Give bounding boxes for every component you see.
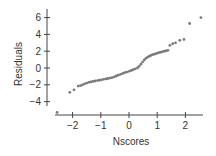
data-point: [168, 44, 171, 47]
y-tick-label: 0: [35, 63, 41, 74]
x-tick-label: −1: [95, 120, 107, 131]
x-tick-label: −2: [67, 120, 79, 131]
data-point: [73, 88, 76, 91]
y-tick-label: −2: [30, 79, 42, 90]
x-axis-label: Nscores: [113, 136, 150, 147]
data-points: [56, 16, 203, 114]
data-point: [178, 39, 181, 42]
data-point: [183, 38, 186, 41]
x-tick-label: 1: [154, 120, 160, 131]
data-point: [68, 91, 71, 94]
y-axis: −4−20246: [30, 9, 50, 107]
x-tick-label: 2: [183, 120, 189, 131]
data-point: [171, 42, 174, 45]
normal-probability-plot: −4−20246 −2−1012 Residuals Nscores: [0, 0, 216, 156]
y-axis-label: Residuals: [13, 42, 24, 86]
data-point: [200, 16, 203, 19]
data-point: [174, 41, 177, 44]
y-tick-label: −4: [30, 96, 42, 107]
data-point: [167, 49, 170, 52]
y-tick-label: 6: [35, 12, 41, 23]
y-tick-label: 4: [35, 29, 41, 40]
data-point: [56, 111, 59, 114]
data-point: [188, 22, 191, 25]
x-tick-label: 0: [126, 120, 132, 131]
x-axis: −2−1012: [55, 112, 203, 131]
y-tick-label: 2: [35, 46, 41, 57]
